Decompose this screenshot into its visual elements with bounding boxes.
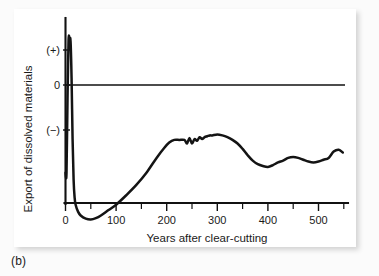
x-tick-label-500: 500 (309, 214, 327, 226)
y-tick-label-zero: 0 (54, 79, 60, 91)
line-chart: Export of dissolved materials (+) 0 (−) (14, 9, 356, 247)
plot-card: Export of dissolved materials (+) 0 (−) (14, 9, 356, 247)
x-tick-label-0: 0 (62, 214, 68, 226)
figure-plate: Export of dissolved materials (+) 0 (−) (0, 0, 379, 276)
x-tick-label-200: 200 (158, 214, 176, 226)
y-axis-title: Export of dissolved materials (22, 65, 34, 212)
plot-area: Export of dissolved materials (+) 0 (−) (14, 9, 356, 247)
panel-caption-label: (b) (11, 254, 26, 268)
x-axis-title: Years after clear-cutting (146, 232, 267, 244)
data-series-line (66, 36, 343, 220)
x-tick-label-100: 100 (107, 214, 125, 226)
y-tick-label-plus: (+) (46, 44, 60, 56)
x-tick-label-300: 300 (208, 214, 226, 226)
y-tick-label-minus: (−) (46, 124, 60, 136)
x-tick-label-400: 400 (259, 214, 277, 226)
